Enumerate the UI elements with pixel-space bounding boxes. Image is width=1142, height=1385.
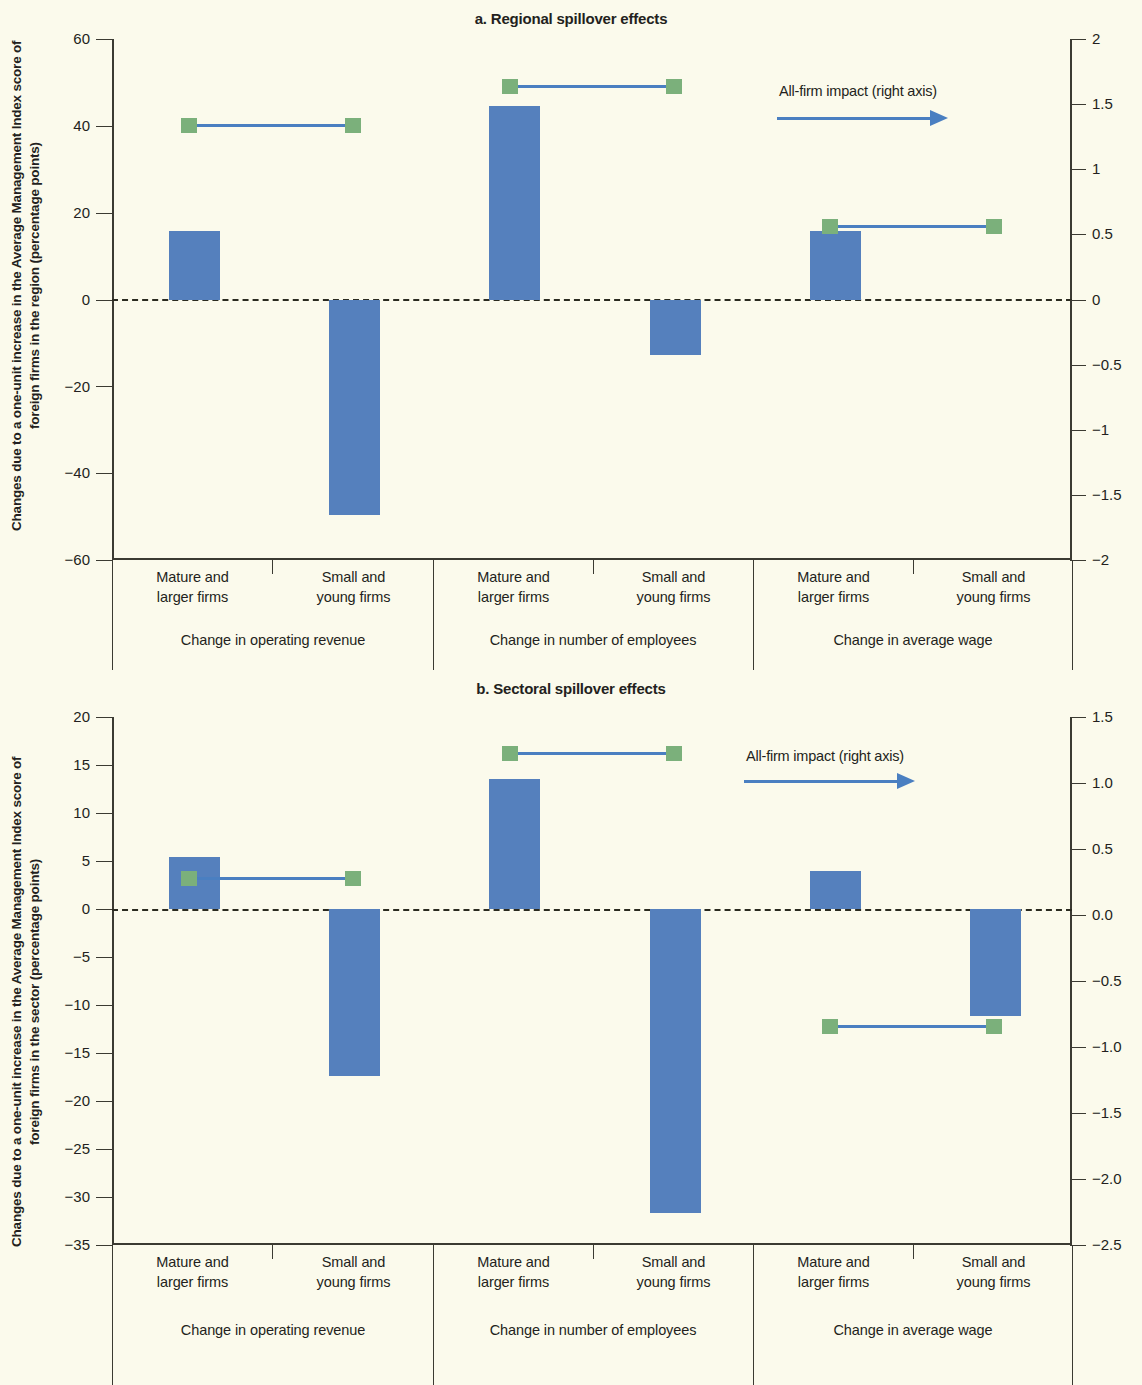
panel-b-right-tick: 0.5 [1092,841,1142,856]
panel-b-left-tickmark [96,1101,112,1102]
panel-b-left-tick: −30 [44,1189,90,1204]
panel-b-annotation-arrow-icon [897,773,915,789]
allfirm-marker-a-group1-left [181,118,197,133]
panel-a-left-tick: 40 [44,118,90,133]
allfirm-line-a-group2 [508,85,678,88]
panel-a-bottom-axis [112,558,1072,560]
panel-a-left-tick: 60 [44,31,90,46]
allfirm-line-b-group1 [188,877,358,880]
panel-b-left-tick: 5 [44,853,90,868]
panel-a-right-tick: 1 [1092,161,1138,176]
panel-a-annotation-arrow-icon [930,110,948,126]
allfirm-marker-a-group2-right [666,79,682,94]
panel-b-group-separator [1072,1245,1073,1385]
panel-a-category-label: Mature and larger firms [115,568,270,607]
panel-b-left-tick: −25 [44,1141,90,1156]
allfirm-marker-a-group3-right [986,219,1002,234]
allfirm-marker-b-group1-left [181,871,197,886]
panel-a-left-tickmark [96,560,112,561]
panel-a-right-tickmark [1070,234,1086,235]
panel-a-category-label: Mature and larger firms [756,568,911,607]
panel-b-right-tick: 1.0 [1092,775,1142,790]
panel-b-left-tickmark [96,1149,112,1150]
panel-a-group-label: Change in number of employees [433,632,753,648]
panel-a-right-tick: 1.5 [1092,96,1138,111]
panel-b-category-label: Mature and larger firms [756,1253,911,1292]
panel-b-left-tickmark [96,1197,112,1198]
panel-b-annotation-label: All-firm impact (right axis) [746,748,904,764]
panel-a-right-tick: −2 [1092,552,1138,567]
panel-b-left-tick: 20 [44,709,90,724]
allfirm-marker-b-group3-right [986,1019,1002,1034]
allfirm-marker-a-group1-right [345,118,361,133]
panel-a-category-label: Mature and larger firms [436,568,591,607]
panel-a-zero-line [112,299,1072,301]
panel-b-right-tick: −0.5 [1092,973,1142,988]
bar-a-4 [810,231,861,300]
panel-b-plot-area [112,717,1072,1245]
panel-b-group-separator [433,1245,434,1385]
panel-b-title: b. Sectoral spillover effects [0,680,1142,697]
panel-a-right-tick: 0 [1092,292,1138,307]
panel-a-right-tickmark [1070,300,1086,301]
panel-a-right-tick: −1.5 [1092,487,1138,502]
bar-a-3 [650,300,701,355]
allfirm-marker-a-group2-left [502,79,518,94]
panel-a-left-tick: −20 [44,379,90,394]
panel-a-annotation-label: All-firm impact (right axis) [779,83,937,99]
bar-a-2 [489,106,540,300]
allfirm-marker-b-group2-right [666,746,682,761]
panel-b-left-tick: 10 [44,805,90,820]
panel-a-left-tickmark [96,126,112,127]
panel-a-left-tickmark [96,39,112,40]
panel-a-category-tickmark [913,560,914,574]
panel-b-left-tick: −15 [44,1045,90,1060]
panel-a-category-tickmark [272,560,273,574]
panel-a-right-tick: −1 [1092,422,1138,437]
allfirm-line-b-group3 [829,1025,999,1028]
panel-b-left-tickmark [96,1005,112,1006]
panel-a-left-tick: 20 [44,205,90,220]
panel-a-left-tick: −60 [44,552,90,567]
panel-a-right-tickmark [1070,104,1086,105]
panel-b-left-tickmark [96,1245,112,1246]
panel-b-left-tickmark [96,717,112,718]
panel-b-left-tick: −20 [44,1093,90,1108]
bar-b-1 [329,909,380,1076]
panel-a-group-separator [753,560,754,670]
allfirm-line-b-group2 [508,752,678,755]
bar-b-2 [489,779,540,909]
panel-b-bottom-axis [112,1243,1072,1245]
panel-b-right-tick: 1.5 [1092,709,1142,724]
panel-a-left-tick: 0 [44,292,90,307]
panel-b-right-tickmark [1070,717,1086,718]
panel-a-group-separator [112,560,113,670]
panel-b-zero-line [112,909,1072,911]
panel-b-left-tickmark [96,813,112,814]
panel-a-y-axis-title: Changes due to a one-unit increase in th… [8,36,56,536]
figure-root: a. Regional spillover effects Changes du… [0,0,1142,1385]
allfirm-marker-a-group3-left [822,219,838,234]
panel-a-category-tickmark [593,560,594,574]
panel-a-category-label: Small and young firms [596,568,751,607]
panel-b-left-tickmark [96,1053,112,1054]
panel-b-group-separator [112,1245,113,1385]
panel-b-left-tickmark [96,909,112,910]
panel-a-right-tickmark [1070,495,1086,496]
panel-a-category-label: Small and young firms [916,568,1071,607]
panel-b-category-label: Small and young firms [276,1253,431,1292]
allfirm-marker-b-group3-left [822,1019,838,1034]
panel-b-group-separator [753,1245,754,1385]
panel-b-left-tick: −35 [44,1237,90,1252]
panel-b-left-tick: 15 [44,757,90,772]
panel-b-right-tickmark [1070,915,1086,916]
panel-b-right-tickmark [1070,849,1086,850]
panel-b-category-label: Small and young firms [916,1253,1071,1292]
panel-a-left-tick: −40 [44,465,90,480]
panel-a-annotation-arrow-shaft [777,117,932,120]
bar-b-3 [650,909,701,1213]
panel-b-category-label: Mature and larger firms [115,1253,270,1292]
panel-a-right-tick: −0.5 [1092,357,1138,372]
panel-b: b. Sectoral spillover effects Changes du… [0,672,1142,1385]
panel-b-category-tickmark [913,1245,914,1259]
